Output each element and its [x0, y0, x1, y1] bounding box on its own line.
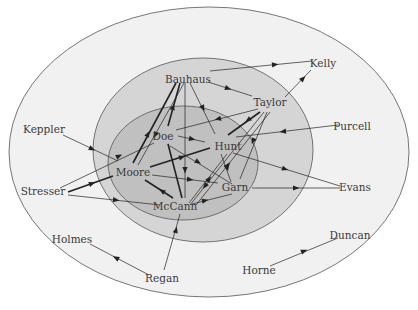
node-label-holmes: Holmes	[52, 233, 92, 245]
concentric-rings	[9, 7, 409, 297]
node-label-mccann: McCann	[153, 200, 198, 212]
node-label-bauhaus: Bauhaus	[165, 73, 211, 85]
node-label-regan: Regan	[145, 272, 179, 284]
node-label-stresser: Stresser	[21, 185, 67, 197]
node-label-duncan: Duncan	[330, 229, 371, 241]
node-label-hunt: Hunt	[215, 140, 243, 152]
node-label-garn: Garn	[222, 181, 249, 193]
node-label-keppler: Keppler	[23, 123, 66, 135]
node-label-doe: Doe	[153, 130, 174, 142]
node-label-moore: Moore	[116, 166, 151, 178]
node-label-taylor: Taylor	[253, 96, 287, 108]
node-label-purcell: Purcell	[333, 120, 371, 132]
node-label-kelly: Kelly	[310, 57, 336, 69]
node-label-horne: Horne	[242, 264, 275, 276]
node-label-evans: Evans	[339, 181, 371, 193]
sociogram-diagram: KellyBauhausTaylorPurcellKepplerDoeHuntM…	[0, 0, 418, 310]
